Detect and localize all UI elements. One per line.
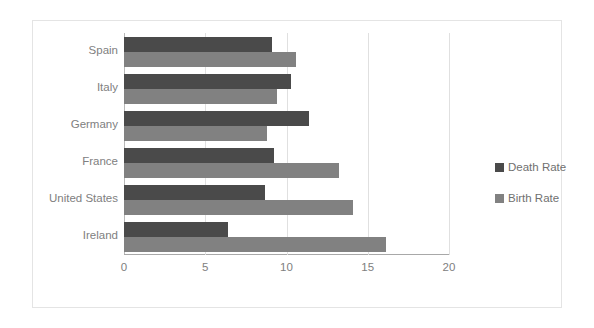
bar-birth-rate-italy[interactable]: [124, 89, 277, 104]
category-label-spain: Spain: [28, 44, 118, 56]
x-tick-0: 0: [121, 261, 127, 273]
legend-swatch-icon: [495, 194, 504, 203]
bar-death-rate-ireland[interactable]: [124, 222, 228, 237]
legend-label: Death Rate: [508, 161, 566, 173]
bar-birth-rate-germany[interactable]: [124, 126, 267, 141]
gridline: [449, 33, 450, 255]
bar-group: France: [124, 144, 449, 181]
x-tick-20: 20: [443, 261, 456, 273]
legend-item-birth-rate[interactable]: Birth Rate: [495, 192, 565, 204]
bar-death-rate-germany[interactable]: [124, 111, 309, 126]
legend-swatch-icon: [495, 163, 504, 172]
x-tick-10: 10: [280, 261, 293, 273]
legend-item-death-rate[interactable]: Death Rate: [495, 161, 565, 173]
bar-birth-rate-ireland[interactable]: [124, 237, 386, 252]
bar-birth-rate-france[interactable]: [124, 163, 339, 178]
bar-death-rate-italy[interactable]: [124, 74, 291, 89]
legend-label: Birth Rate: [508, 192, 559, 204]
bar-group: Spain: [124, 33, 449, 70]
x-tick-15: 15: [361, 261, 374, 273]
bar-birth-rate-spain[interactable]: [124, 52, 296, 67]
bar-group: Germany: [124, 107, 449, 144]
category-label-germany: Germany: [28, 118, 118, 130]
bar-birth-rate-united-states[interactable]: [124, 200, 353, 215]
bar-death-rate-spain[interactable]: [124, 37, 272, 52]
chart-frame: SpainItalyGermanyFranceUnited StatesIrel…: [32, 20, 562, 308]
bar-group: United States: [124, 181, 449, 218]
x-tick-5: 5: [202, 261, 208, 273]
category-label-united-states: United States: [28, 192, 118, 204]
category-label-france: France: [28, 155, 118, 167]
bar-group: Italy: [124, 70, 449, 107]
bar-death-rate-france[interactable]: [124, 148, 274, 163]
category-label-italy: Italy: [28, 81, 118, 93]
category-label-ireland: Ireland: [28, 229, 118, 241]
bar-group: Ireland: [124, 218, 449, 255]
chart-legend: Death RateBirth Rate: [495, 161, 565, 223]
bar-death-rate-united-states[interactable]: [124, 185, 265, 200]
plot-area: SpainItalyGermanyFranceUnited StatesIrel…: [124, 33, 449, 255]
